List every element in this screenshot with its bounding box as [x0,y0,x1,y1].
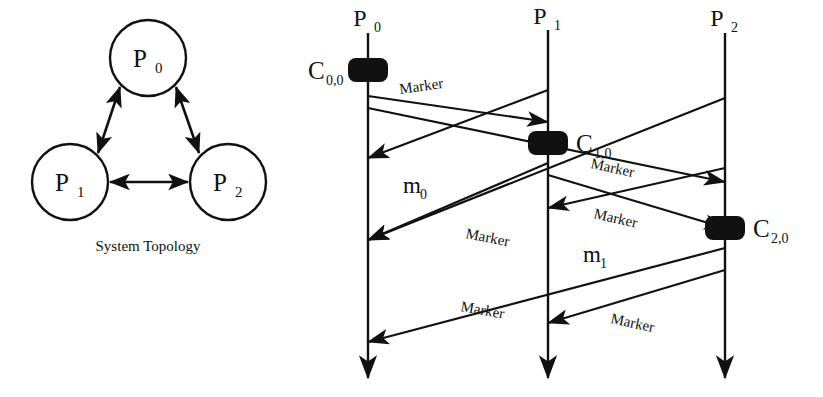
lifeline-sub-p1: 1 [554,18,561,33]
message-label: Marker [609,310,656,335]
message-label: m [583,242,601,267]
system-topology-panel: P 0 P 1 P 2 System Topology [0,0,320,397]
node-circle-p1 [32,144,108,220]
topology-node-p0[interactable]: P 0 [110,20,186,96]
checkpoint-c00[interactable]: C 0,0 [308,57,388,88]
checkpoint-label-sub: 0,0 [326,73,344,88]
lifeline-sub-p2: 2 [731,20,738,35]
snapshot-diagram-panel: P 0 P 1 P 2 Marker [300,0,823,397]
message-label: m [403,173,421,198]
lifeline-label-p0: P [353,5,366,31]
node-sub-p2: 2 [235,184,243,200]
figure-root: P 0 P 1 P 2 System Topology [0,0,823,397]
checkpoint-c10[interactable]: C 1,0 [528,130,612,161]
message-marker-p1-p0[interactable]: Marker [368,163,548,249]
message-arrow [368,163,548,240]
snapshot-svg: P 0 P 1 P 2 Marker [300,0,823,397]
node-circle-p0 [110,20,186,96]
message-m0-p1-p0[interactable]: m 0 [368,90,548,202]
checkpoint-marker [348,58,388,82]
lifeline-p1[interactable]: P 1 [533,3,561,378]
node-sub-p1: 1 [77,184,85,200]
topology-edges [98,87,199,182]
message-label: Marker [459,298,505,321]
checkpoint-marker [528,131,568,155]
message-label-sub: 1 [600,256,607,271]
message-arrow [368,248,725,342]
message-marker-p2-p1[interactable]: Marker [548,270,725,335]
message-marker-p2-p0[interactable]: Marker [368,248,725,342]
message-marker-p0-p1[interactable]: Marker [368,75,548,122]
node-label-p1: P [55,169,69,196]
node-label-p2: P [213,169,227,196]
message-label: Marker [592,205,639,231]
topology-node-p1[interactable]: P 1 [32,144,108,220]
checkpoint-c20[interactable]: C 2,0 [705,215,789,246]
node-sub-p0: 0 [155,60,163,76]
node-label-p0: P [133,45,147,72]
lifeline-sub-p0: 0 [374,20,381,35]
message-label: Marker [464,225,510,249]
lifeline-label-p2: P [710,5,723,31]
checkpoint-marker [705,216,745,240]
messages: Marker Marker m 0 [368,75,725,342]
edge-p0-p1 [98,87,120,153]
edge-p0-p2 [176,87,199,153]
checkpoint-label-sub: 2,0 [771,231,789,246]
topology-node-p2[interactable]: P 2 [190,144,266,220]
node-circle-p2 [190,144,266,220]
checkpoint-label: C [576,130,593,157]
message-label: Marker [398,75,444,97]
checkpoint-label: C [753,215,770,242]
message-label-sub: 0 [420,187,427,202]
topology-svg: P 0 P 1 P 2 System Topology [0,0,320,397]
topology-caption: System Topology [96,238,201,254]
checkpoint-label-sub: 1,0 [594,146,612,161]
checkpoint-label: C [308,57,325,84]
lifeline-p2[interactable]: P 2 [710,5,738,378]
lifeline-label-p1: P [533,3,546,29]
